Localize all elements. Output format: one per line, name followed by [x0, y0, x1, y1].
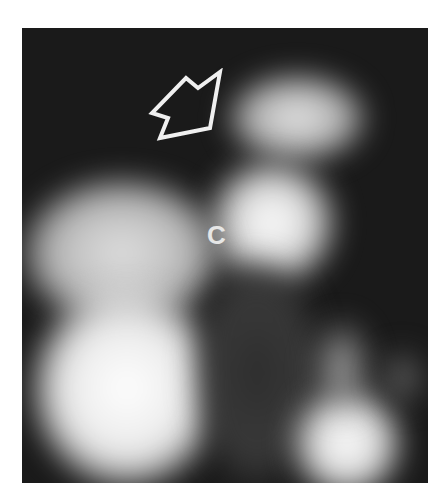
region-label: C [207, 222, 226, 248]
arrow-annotation-icon [148, 68, 228, 146]
uptake-region-right-mid [312, 318, 372, 418]
uptake-region-far-right [377, 348, 427, 408]
uptake-region-apex [227, 73, 367, 163]
